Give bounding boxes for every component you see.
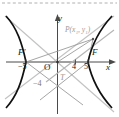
focus-left-label: F′ bbox=[18, 48, 25, 57]
x-axis-arrowhead bbox=[109, 59, 116, 65]
tick-label-five: 5 bbox=[84, 63, 88, 71]
tangent-label: T bbox=[60, 73, 65, 82]
x-axis-label: x bbox=[106, 63, 110, 72]
tick-label-minus-five: −5 bbox=[18, 63, 27, 71]
tangent-line bbox=[46, 30, 114, 82]
point-p-label: P(x₁, y₁) bbox=[65, 26, 90, 34]
hyperbola-figure: y x O P(x₁, y₁) F F′ T 4 5 −5 −4 bbox=[0, 0, 119, 117]
y-axis-label: y bbox=[58, 14, 62, 23]
origin-label: O bbox=[44, 63, 51, 72]
chord-left-focus-to-p bbox=[26, 39, 93, 62]
focus-right-label: F bbox=[92, 48, 98, 57]
tick-label-four: 4 bbox=[72, 63, 76, 71]
origin-point bbox=[56, 61, 59, 64]
tick-label-minus-four: −4 bbox=[33, 80, 42, 88]
point-p-marker bbox=[92, 38, 94, 40]
